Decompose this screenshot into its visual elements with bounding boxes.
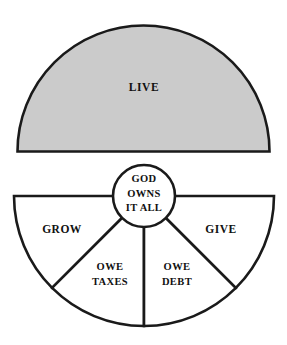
live-label: LIVE <box>129 81 160 93</box>
wedge-label-owe-taxes-line2: TAXES <box>92 276 128 287</box>
budget-diagram-svg: LIVE GROW GIVE OWE TAXES OWE DEBT GOD OW… <box>0 0 287 345</box>
wedge-label-owe-debt-line1: OWE <box>164 261 191 272</box>
wedge-label-owe-debt-line2: DEBT <box>162 276 192 287</box>
center-label-line1: GOD <box>132 173 157 184</box>
wedge-label-give: GIVE <box>205 223 236 235</box>
budget-diagram: LIVE GROW GIVE OWE TAXES OWE DEBT GOD OW… <box>0 0 287 345</box>
center-label-line2: OWNS <box>127 188 160 199</box>
wedge-label-owe-taxes-line1: OWE <box>97 261 124 272</box>
wedge-label-grow: GROW <box>42 223 82 235</box>
center-label-line3: IT ALL <box>126 202 162 213</box>
